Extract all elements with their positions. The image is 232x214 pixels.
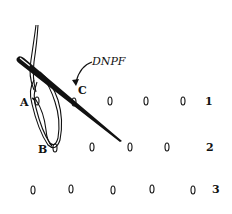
row-number-3: 3 [212,183,220,196]
point-b-label: B [38,143,47,156]
point-a-label: A [20,96,29,109]
stitch-diagram: DNPF A B C 1 2 3 [0,0,232,214]
needle-icon [16,56,122,142]
point-c-label: C [78,84,87,97]
row-number-1: 1 [205,95,213,108]
needle-label: DNPF [92,55,125,68]
needle-and-thread-illustration [0,0,232,214]
row-number-2: 2 [206,141,214,154]
arrow-icon [72,62,92,86]
stitch-marks [31,97,195,194]
